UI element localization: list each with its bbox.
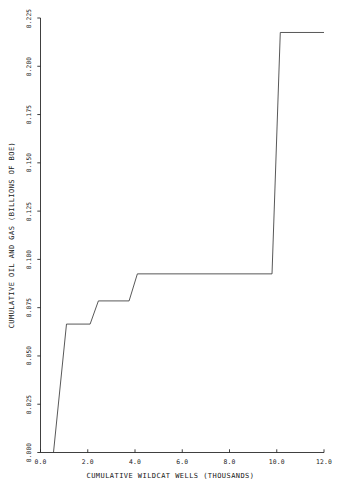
y-tick-label: 0.200 — [23, 53, 32, 79]
x-tick-label: 10.0 — [262, 458, 292, 466]
x-tick-label: 0.0 — [26, 458, 56, 466]
step-line-chart — [0, 0, 341, 490]
y-axis-title: CUMULATIVE OIL AND GAS (BILLIONS OF BOE) — [7, 85, 17, 385]
chart-container: 0.0000.0250.0500.0750.1000.1250.1500.175… — [0, 0, 341, 490]
x-axis-ticks — [41, 449, 325, 452]
y-axis-ticks — [37, 18, 40, 453]
y-tick-label: 0.225 — [23, 5, 32, 31]
y-tick-label: 0.175 — [23, 102, 32, 128]
y-tick-label: 0.100 — [23, 246, 32, 272]
y-tick-label: 0.050 — [23, 343, 32, 369]
y-tick-label: 0.125 — [23, 198, 32, 224]
x-tick-label: 4.0 — [120, 458, 150, 466]
x-tick-label: 6.0 — [167, 458, 197, 466]
x-tick-label: 2.0 — [73, 458, 103, 466]
x-axis-title: CUMULATIVE WILDCAT WELLS (THOUSANDS) — [0, 472, 341, 480]
data-series-line — [53, 32, 324, 452]
y-tick-label: 0.075 — [23, 295, 32, 321]
x-tick-label: 12.0 — [309, 458, 339, 466]
y-tick-label: 0.025 — [23, 391, 32, 417]
x-tick-label: 8.0 — [215, 458, 245, 466]
y-tick-label: 0.150 — [23, 150, 32, 176]
